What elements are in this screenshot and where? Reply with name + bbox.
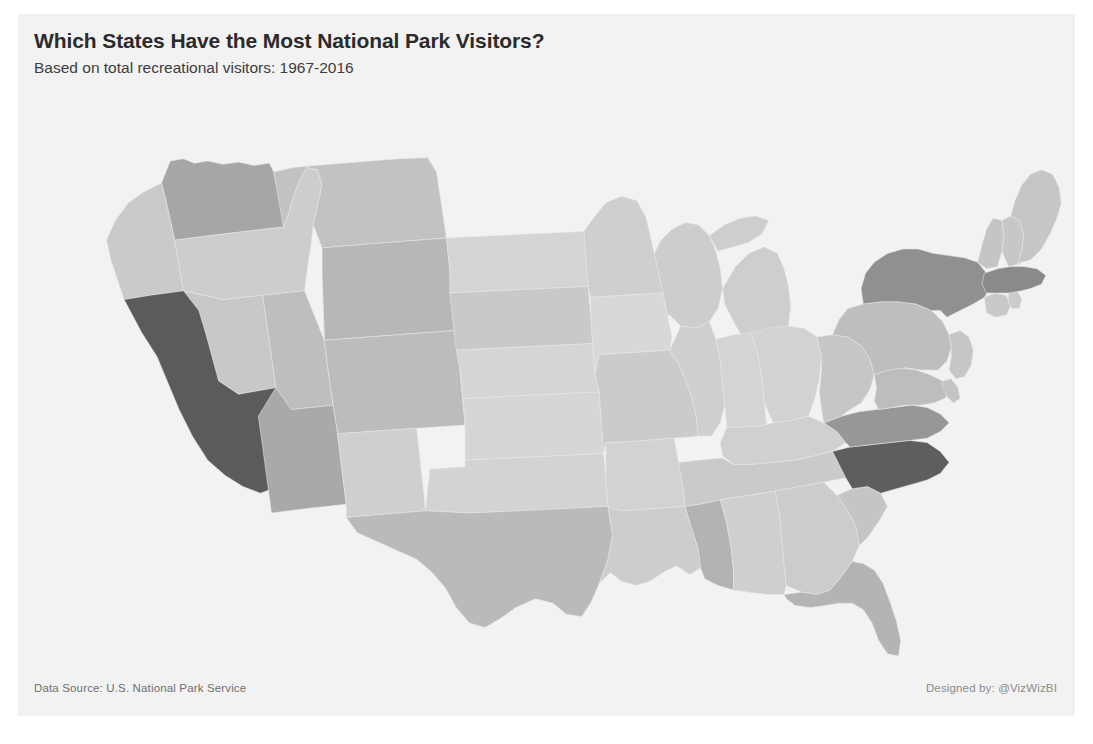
state-OK[interactable] — [426, 454, 609, 513]
state-KS[interactable] — [463, 392, 604, 460]
state-TX[interactable] — [346, 506, 612, 627]
data-source-label: Data Source: U.S. National Park Service — [34, 682, 246, 694]
designed-by-label: Designed by: @VizWizBI — [926, 682, 1057, 694]
state-SD[interactable] — [450, 286, 593, 350]
state-LA[interactable] — [599, 506, 700, 585]
state-NE[interactable] — [456, 344, 599, 399]
state-AR[interactable] — [606, 438, 685, 511]
visualization-card: Which States Have the Most National Park… — [18, 14, 1075, 716]
state-RI[interactable] — [1009, 291, 1022, 309]
state-NJ[interactable] — [949, 330, 973, 378]
state-NM[interactable] — [338, 428, 426, 517]
header: Which States Have the Most National Park… — [34, 28, 934, 79]
states-layer — [107, 158, 1062, 656]
choropleth-map[interactable] — [18, 106, 1075, 656]
state-WY[interactable] — [322, 238, 456, 340]
state-MN[interactable] — [584, 196, 663, 297]
state-NC[interactable] — [833, 440, 950, 493]
us-states-map-svg[interactable] — [18, 106, 1075, 656]
state-VT[interactable] — [978, 218, 1004, 269]
page-title: Which States Have the Most National Park… — [34, 28, 934, 54]
state-ND[interactable] — [446, 231, 588, 293]
state-DE[interactable] — [943, 379, 961, 403]
state-CT[interactable] — [984, 293, 1010, 317]
state-MA[interactable] — [982, 267, 1046, 293]
state-MD[interactable] — [874, 368, 951, 410]
state-WA[interactable] — [162, 159, 284, 240]
page-subtitle: Based on total recreational visitors: 19… — [34, 57, 934, 79]
state-CO[interactable] — [324, 330, 465, 433]
